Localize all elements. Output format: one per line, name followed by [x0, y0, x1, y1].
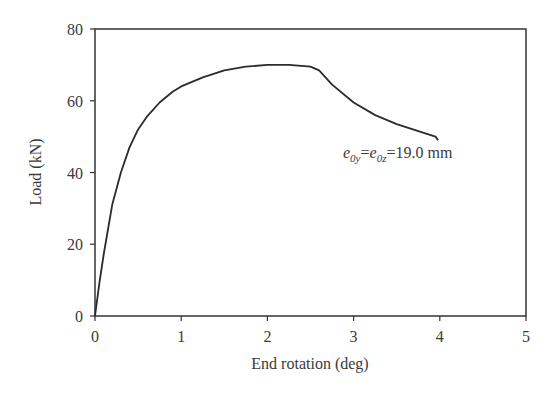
- y-axis-ticks: 020406080: [67, 21, 95, 325]
- x-tick-label: 1: [177, 328, 185, 345]
- x-axis-ticks: 012345: [91, 316, 530, 345]
- x-axis-label: End rotation (deg): [251, 355, 368, 373]
- x-tick-label: 0: [91, 328, 99, 345]
- load-rotation-chart: 012345 020406080 End rotation (deg) Load…: [0, 0, 550, 398]
- y-tick-label: 40: [67, 165, 83, 182]
- x-tick-label: 3: [350, 328, 358, 345]
- x-tick-label: 4: [436, 328, 444, 345]
- y-tick-label: 80: [67, 21, 83, 38]
- y-tick-label: 0: [75, 308, 83, 325]
- plot-frame: [95, 29, 526, 316]
- y-tick-label: 60: [67, 93, 83, 110]
- eccentricity-annotation: e0y=e0z=19.0 mm: [343, 144, 453, 164]
- y-tick-label: 20: [67, 236, 83, 253]
- y-axis-label: Load (kN): [27, 138, 45, 205]
- x-tick-label: 2: [263, 328, 271, 345]
- load-rotation-curve: [95, 65, 438, 316]
- x-tick-label: 5: [522, 328, 530, 345]
